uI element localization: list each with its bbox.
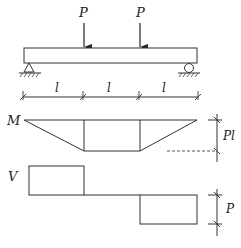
shear-magnitude-label: P [225,202,235,216]
beam-diagram: P P l l l M Pl [0,0,241,248]
load-right: P [135,5,145,47]
load-left: P [78,5,88,47]
load-label-left: P [78,5,88,20]
moment-label: M [6,113,21,128]
pin-support-icon [19,63,41,77]
span-dimensions: l l l [20,81,201,100]
span-label-3: l [162,81,166,95]
moment-max-label: Pl [222,129,235,143]
span-label-1: l [55,81,59,95]
roller-support-icon [178,64,200,78]
shear-label: V [8,169,19,184]
shear-diagram: V P [8,166,235,236]
beam [24,48,197,63]
load-label-right: P [135,5,145,20]
span-label-2: l [107,81,111,95]
moment-diagram: M Pl [6,113,235,162]
